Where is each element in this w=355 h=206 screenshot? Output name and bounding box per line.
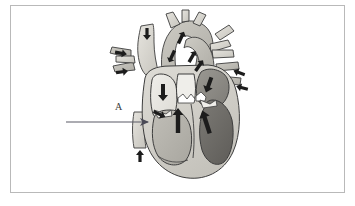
left-vessel-stub-mid	[116, 56, 135, 63]
left-common-carotid	[182, 10, 189, 22]
left-ventricle-chamber	[200, 100, 234, 164]
heart-illustration	[0, 0, 355, 206]
heart-body-group	[142, 65, 239, 178]
right-upper-branch	[215, 25, 234, 40]
right-pulmonary-artery-branch-mid	[212, 50, 234, 58]
ivc-inflow-arrow	[136, 150, 144, 162]
left-subclavian	[193, 12, 206, 26]
label-a: A	[115, 101, 122, 112]
heart-diagram-figure: A	[0, 0, 355, 206]
